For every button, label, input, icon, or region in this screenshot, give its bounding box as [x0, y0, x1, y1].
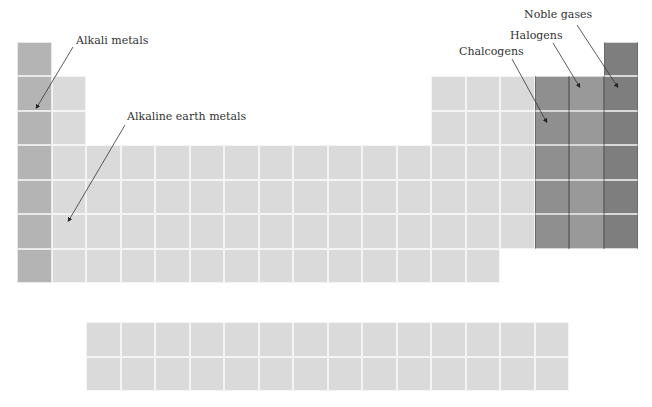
label-noble-gases: Noble gases: [524, 8, 592, 21]
halogens-arrow: [553, 43, 579, 86]
label-chalcogens: Chalcogens: [459, 45, 524, 58]
label-alkaline-earth-metals: Alkaline earth metals: [127, 110, 246, 123]
label-halogens: Halogens: [510, 29, 563, 42]
chalcogens-arrow: [512, 59, 546, 121]
label-alkali-metals: Alkali metals: [76, 34, 148, 47]
noble-gases-arrow: [577, 25, 617, 86]
alkali-arrow: [37, 47, 73, 107]
alkaline-earth-arrow: [69, 125, 125, 220]
annotation-arrows: [0, 0, 652, 407]
